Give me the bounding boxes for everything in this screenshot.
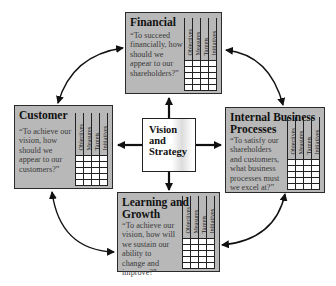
curve-financial-internal [226, 50, 283, 105]
vision-strategy-box: Vision and Strategy [142, 118, 196, 172]
learning-growth-box: Learning and Growth “To achieve our visi… [117, 192, 220, 272]
curve-customer-financial [58, 48, 123, 103]
customer-box: Customer “To achieve our vision, how sho… [14, 105, 113, 189]
internal-scorecard-table: Objectives Measures Targets Initiatives [287, 117, 320, 190]
learning-scorecard-table: Objectives Measures Targets Initiatives [182, 196, 215, 269]
column-initiatives: Initiatives [313, 130, 320, 155]
column-initiatives: Initiatives [101, 126, 108, 151]
curve-customer-learning [52, 192, 114, 252]
curve-internal-learning [222, 194, 285, 245]
column-initiatives: Initiatives [210, 31, 217, 56]
financial-box: Financial “To succeed financially, how s… [125, 12, 222, 94]
financial-scorecard-table: Objectives Measures Targets Initiatives [184, 18, 217, 91]
customer-scorecard-table: Objectives Measures Targets Initiatives [75, 113, 108, 186]
vision-strategy-label: Vision and Strategy [149, 124, 189, 157]
internal-business-box: Internal Business Processes “To satisfy … [225, 107, 325, 193]
column-initiatives: Initiatives [208, 209, 215, 234]
